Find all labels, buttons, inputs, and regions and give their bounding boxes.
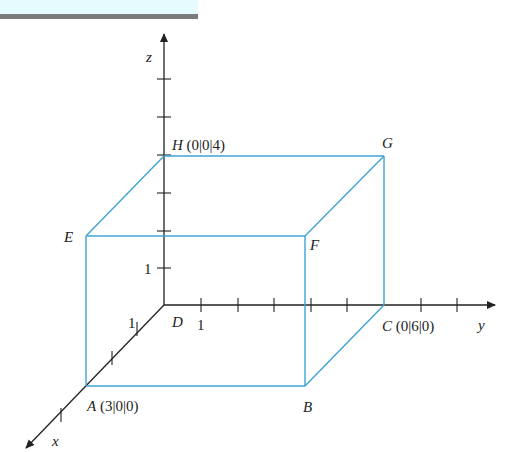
- cuboid-edges: [86, 156, 384, 386]
- edge-EH: [86, 156, 164, 236]
- z-axis-label: z: [145, 49, 152, 65]
- diagram-root: z y x 1 1 1 H (0|0|4) G E F D C (0|6|0) …: [0, 0, 509, 452]
- point-H-label: H (0|0|4): [171, 137, 225, 154]
- point-E-label: E: [63, 229, 73, 245]
- edge-BC: [305, 305, 384, 386]
- edge-FG: [305, 156, 384, 236]
- point-A-label: A (3|0|0): [86, 398, 138, 415]
- point-G-label: G: [382, 135, 393, 151]
- y-axis-label: y: [476, 317, 485, 333]
- y-unit-label: 1: [197, 317, 205, 333]
- z-unit-label: 1: [144, 261, 152, 277]
- point-F-label: F: [309, 237, 320, 253]
- x-axis-label: x: [51, 433, 59, 449]
- cuboid-diagram: z y x 1 1 1 H (0|0|4) G E F D C (0|6|0) …: [0, 0, 509, 452]
- x-axis: [26, 305, 164, 448]
- point-C-label: C (0|6|0): [382, 318, 434, 335]
- axis-ticks: [61, 79, 457, 422]
- point-D-label: D: [171, 314, 183, 330]
- point-B-label: B: [303, 399, 312, 415]
- x-unit-label: 1: [128, 315, 136, 331]
